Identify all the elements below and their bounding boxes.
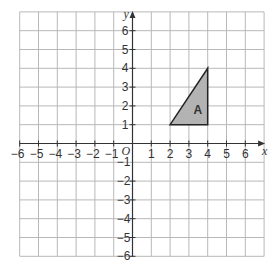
svg-text:6: 6: [122, 24, 129, 38]
svg-text:1: 1: [122, 118, 129, 132]
svg-text:5: 5: [223, 147, 230, 161]
svg-text:3: 3: [122, 80, 129, 94]
svg-text:4: 4: [122, 61, 129, 75]
x-axis-label: x: [261, 144, 268, 158]
origin-label: O: [122, 144, 131, 158]
svg-text:−5: −5: [30, 147, 44, 161]
svg-text:2: 2: [167, 147, 174, 161]
svg-text:−5: −5: [117, 231, 131, 245]
svg-text:2: 2: [122, 99, 129, 113]
svg-text:−2: −2: [86, 147, 100, 161]
svg-text:−3: −3: [117, 193, 131, 207]
svg-text:6: 6: [242, 147, 249, 161]
coordinate-grid: A −6−5−4−3−2−1123456123456−1−2−3−4−5−6 x…: [0, 0, 280, 277]
svg-text:4: 4: [204, 147, 211, 161]
svg-text:5: 5: [122, 43, 129, 57]
svg-text:−6: −6: [11, 147, 25, 161]
triangle-label: A: [194, 103, 203, 117]
y-axis-label: y: [123, 7, 130, 21]
svg-text:3: 3: [186, 147, 193, 161]
svg-text:−6: −6: [117, 249, 131, 263]
axes: [20, 11, 265, 256]
svg-text:−3: −3: [67, 147, 81, 161]
grid-lines: [20, 12, 264, 256]
svg-text:−2: −2: [117, 174, 131, 188]
svg-text:−4: −4: [117, 212, 131, 226]
svg-text:1: 1: [148, 147, 155, 161]
svg-text:−4: −4: [48, 147, 62, 161]
